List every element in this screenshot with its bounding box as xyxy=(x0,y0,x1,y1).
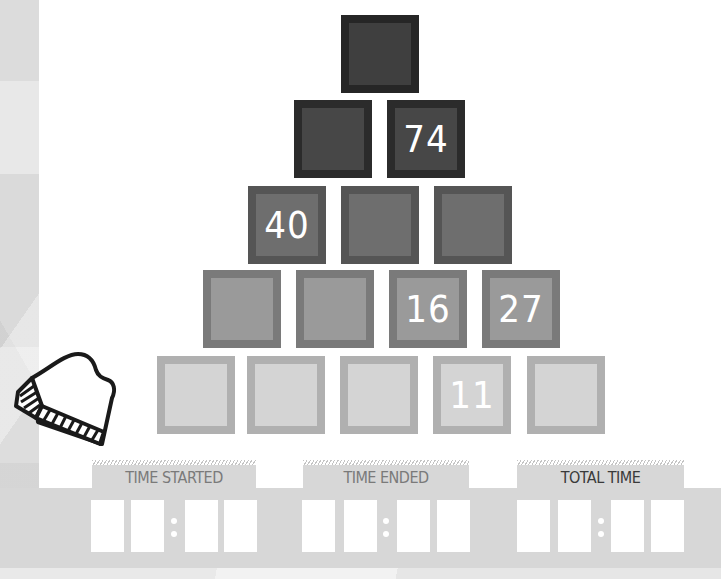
time-started-digit[interactable] xyxy=(91,500,124,552)
time-ended-digit[interactable] xyxy=(302,500,335,552)
colon-dot xyxy=(171,518,177,524)
total-time-digit[interactable] xyxy=(517,500,550,552)
pyramid-cell[interactable] xyxy=(247,356,325,434)
pyramid-cell[interactable] xyxy=(341,186,419,264)
pyramid-cell[interactable] xyxy=(340,356,418,434)
colon-dot xyxy=(383,518,389,524)
pyramid-cell[interactable] xyxy=(296,270,374,348)
time-ended-digit[interactable] xyxy=(437,500,470,552)
total-time-label: TOTAL TIME xyxy=(517,464,684,490)
pyramid-cell[interactable] xyxy=(434,186,512,264)
pyramid-cell[interactable] xyxy=(527,356,605,434)
colon-dot xyxy=(171,531,177,537)
pyramid-cell[interactable] xyxy=(157,356,235,434)
pyramid-cell[interactable] xyxy=(294,100,372,178)
pyramid-cell[interactable] xyxy=(203,270,281,348)
time-started-digit[interactable] xyxy=(224,500,257,552)
decorative-bottom-edge xyxy=(0,568,721,579)
mitten-icon xyxy=(10,340,120,450)
time-started-digit[interactable] xyxy=(185,500,218,552)
total-time-digit[interactable] xyxy=(558,500,591,552)
colon-dot xyxy=(598,518,604,524)
pyramid-cell[interactable]: 11 xyxy=(433,356,511,434)
time-ended-digit[interactable] xyxy=(397,500,430,552)
pyramid-cell[interactable]: 16 xyxy=(389,270,467,348)
time-started-label: TIME STARTED xyxy=(92,464,256,490)
pyramid-cell[interactable]: 27 xyxy=(482,270,560,348)
pyramid-cell[interactable] xyxy=(341,15,419,93)
colon-dot xyxy=(383,531,389,537)
total-time-digit[interactable] xyxy=(611,500,644,552)
total-time-digit[interactable] xyxy=(651,500,684,552)
pyramid-cell[interactable]: 74 xyxy=(387,100,465,178)
time-started-digit[interactable] xyxy=(131,500,164,552)
pyramid-cell[interactable]: 40 xyxy=(248,186,326,264)
colon-dot xyxy=(598,531,604,537)
time-ended-label: TIME ENDED xyxy=(303,464,469,490)
time-ended-digit[interactable] xyxy=(344,500,377,552)
